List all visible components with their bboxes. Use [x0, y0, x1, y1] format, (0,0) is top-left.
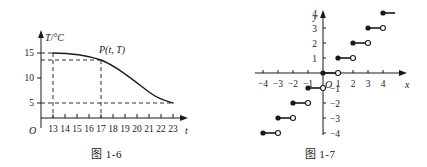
- y-tick-label-neg2: −2: [330, 99, 340, 109]
- point-p-label: P(t, T): [98, 44, 126, 56]
- floor-function-chart: x y O −4 −3 −2 −1 1 2 3 4 4 3 2 1 −1 −2 …: [213, 0, 427, 140]
- figure-1-6-caption: 图 1-6: [0, 145, 213, 161]
- x-tick-label-neg4: −4: [258, 79, 268, 89]
- x-tick-label-4: 4: [381, 79, 386, 89]
- x-tick-label-20: 20: [132, 124, 142, 134]
- y-tick-label-15: 15: [25, 48, 35, 58]
- x-tick-label-neg3: −3: [273, 79, 283, 89]
- figure-1-6-panel: T/°C t O 5 10 15 13 14 15 16 17 18 19 20…: [0, 0, 213, 167]
- x-tick-label-neg2: −2: [288, 79, 298, 89]
- y-tick-label-5: 5: [29, 98, 34, 108]
- y-tick-label-neg3: −3: [330, 114, 340, 124]
- x-tick-label-15: 15: [72, 124, 82, 134]
- x-tick-label-23: 23: [168, 124, 178, 134]
- x-tick-label-21: 21: [144, 124, 154, 134]
- temperature-time-chart: T/°C t O 5 10 15 13 14 15 16 17 18 19 20…: [0, 0, 213, 140]
- figure-1-7-panel: x y O −4 −3 −2 −1 1 2 3 4 4 3 2 1 −1 −2 …: [213, 0, 427, 167]
- origin-label: O: [29, 125, 36, 136]
- figure-1-7-caption: 图 1-7: [213, 145, 427, 161]
- x-axis-label: t: [185, 125, 188, 136]
- x-tick-label-18: 18: [108, 124, 118, 134]
- temperature-curve: [53, 53, 173, 103]
- y-tick-label-10: 10: [25, 73, 35, 83]
- x-tick-label-22: 22: [156, 124, 166, 134]
- y-tick-label-1: 1: [312, 54, 317, 64]
- x-tick-label-13: 13: [48, 124, 58, 134]
- x-tick-label-3: 3: [366, 79, 371, 89]
- y-tick-label-neg1: −1: [330, 84, 340, 94]
- figure-pair-container: T/°C t O 5 10 15 13 14 15 16 17 18 19 20…: [0, 0, 427, 167]
- x-tick-label-16: 16: [84, 124, 94, 134]
- x-tick-label-2: 2: [351, 79, 356, 89]
- y-axis-ticks: [37, 53, 41, 103]
- y-tick-label-4: 4: [312, 9, 317, 19]
- y-axis-label: T/°C: [45, 32, 64, 43]
- x-axis-label: x: [404, 79, 410, 90]
- x-tick-label-neg1: −1: [303, 79, 313, 89]
- x-axis-ticks: [53, 114, 173, 118]
- x-tick-label-14: 14: [60, 124, 70, 134]
- y-tick-label-3: 3: [312, 24, 317, 34]
- x-tick-label-19: 19: [120, 124, 130, 134]
- x-tick-label-17: 17: [96, 124, 106, 134]
- y-tick-label-neg4: −4: [330, 129, 340, 139]
- y-tick-label-2: 2: [312, 39, 317, 49]
